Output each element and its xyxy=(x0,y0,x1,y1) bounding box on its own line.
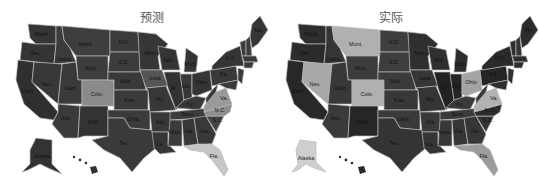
label-la: La. xyxy=(156,141,164,147)
forecast-us-map: Wash. Ore. Calif. Idaho Nev. Mont. Wyo. … xyxy=(0,0,270,190)
label-al: Ala. xyxy=(454,128,464,134)
label-nv: Nev. xyxy=(42,81,53,87)
label-ga: Ga. xyxy=(471,128,480,134)
label-ok: Okla. xyxy=(128,116,141,122)
label-in: Ind. xyxy=(181,83,191,89)
state-az xyxy=(322,104,350,138)
state-az xyxy=(52,104,80,138)
label-me: Me. xyxy=(524,27,534,33)
state-nj xyxy=(508,68,514,84)
label-nc: N.C. xyxy=(215,107,226,113)
label-az: Ariz. xyxy=(61,115,72,121)
label-ak: Alaska xyxy=(34,153,51,159)
label-id: Idaho xyxy=(57,56,71,62)
label-ky: Ky. xyxy=(456,101,464,107)
label-ms: Miss. xyxy=(439,129,452,135)
label-mn: Minn. xyxy=(144,50,158,56)
label-ne: Neb. xyxy=(390,78,402,84)
state-ma xyxy=(242,56,258,62)
label-mt: Mont. xyxy=(79,41,93,47)
label-al: Ala. xyxy=(184,128,194,134)
label-wi: Wis. xyxy=(434,57,445,63)
label-mn: Minn. xyxy=(414,50,428,56)
label-co: Colo. xyxy=(91,91,104,97)
label-me: Me. xyxy=(254,27,264,33)
state-ct xyxy=(514,62,524,68)
label-wa: Wash. xyxy=(34,31,50,37)
label-nc: N.C. xyxy=(485,107,496,113)
label-ny: N.Y. xyxy=(495,55,505,61)
label-id: Idaho xyxy=(327,56,341,62)
label-or: Ore. xyxy=(30,50,41,56)
label-sd: S.D. xyxy=(389,59,400,65)
label-ar: Ark. xyxy=(426,119,436,125)
label-wy: Wyo. xyxy=(355,65,368,71)
label-ny: N.Y. xyxy=(225,55,235,61)
label-ks: Kan. xyxy=(394,97,406,103)
label-ms: Miss. xyxy=(169,129,182,135)
forecast-map-panel: 预测 xyxy=(0,0,270,190)
state-mi xyxy=(454,48,468,72)
label-mi: Mich. xyxy=(184,61,198,67)
label-mt: Mont. xyxy=(349,41,363,47)
state-ma xyxy=(512,56,528,62)
state-mi xyxy=(184,48,198,72)
label-va: Va. xyxy=(490,95,498,101)
label-or: Ore. xyxy=(300,50,311,56)
label-ia: Iowa xyxy=(419,75,432,81)
label-pa: Pa. xyxy=(490,71,499,77)
state-hi xyxy=(339,156,366,174)
label-ia: Iowa xyxy=(149,75,162,81)
state-ct xyxy=(244,62,254,68)
state-fl xyxy=(184,144,228,176)
label-tn: Tenn. xyxy=(181,111,195,117)
label-oh: Ohio xyxy=(465,79,477,85)
label-wy: Wyo. xyxy=(85,65,98,71)
label-va: Va. xyxy=(220,95,228,101)
label-sc: S.C. xyxy=(213,117,224,123)
label-ca: Calif. xyxy=(22,88,35,94)
label-wa: Wash. xyxy=(304,31,320,37)
label-nd: N.D. xyxy=(119,39,130,45)
label-sc: S.C. xyxy=(483,117,494,123)
label-tn: Tenn. xyxy=(451,111,465,117)
label-nm: N.M. xyxy=(357,119,369,125)
actual-map-panel: 实际 xyxy=(270,0,539,190)
label-oh: Ohio xyxy=(195,79,207,85)
label-tx: Tex. xyxy=(119,140,130,146)
label-ks: Kan. xyxy=(124,97,136,103)
state-hi xyxy=(73,156,98,174)
label-wi: Wis. xyxy=(164,57,175,63)
label-mo: Mo. xyxy=(425,96,435,102)
label-il: Ill. xyxy=(171,85,177,91)
label-fl: Fla. xyxy=(209,153,219,159)
label-nd: N.D. xyxy=(389,39,400,45)
state-nj xyxy=(238,68,244,84)
label-ga: Ga. xyxy=(201,128,210,134)
label-ky: Ky. xyxy=(186,101,194,107)
label-ca: Calif. xyxy=(292,88,305,94)
label-ok: Okla. xyxy=(398,116,411,122)
label-fl: Fla. xyxy=(479,153,489,159)
label-ar: Ark. xyxy=(156,119,166,125)
label-ak: Alaska xyxy=(298,155,315,161)
label-mi: Mich. xyxy=(454,61,468,67)
actual-us-map: Wash. Ore. Calif. Idaho Nev. Mont. Wyo. … xyxy=(270,0,539,190)
label-co: Colo. xyxy=(361,91,374,97)
label-nm: N.M. xyxy=(87,119,99,125)
label-mo: Mo. xyxy=(155,96,165,102)
label-ne: Neb. xyxy=(120,78,132,84)
label-sd: S.D. xyxy=(119,59,130,65)
label-pa: Pa. xyxy=(220,71,229,77)
label-ut: Utah xyxy=(334,85,346,91)
state-fl xyxy=(454,144,498,176)
label-tx: Tex. xyxy=(389,140,400,146)
label-la: La. xyxy=(426,141,434,147)
label-in: Ind. xyxy=(451,83,461,89)
label-ut: Utah xyxy=(64,85,76,91)
label-il: Ill. xyxy=(441,85,447,91)
label-az: Ariz. xyxy=(331,115,342,121)
label-nv: Nev. xyxy=(310,81,321,87)
